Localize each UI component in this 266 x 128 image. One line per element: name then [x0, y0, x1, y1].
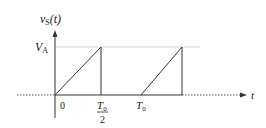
tick-half-period-denominator: 2 — [100, 114, 105, 125]
tick-half-period-numerator: T0 — [97, 99, 107, 113]
x-axis-label: t — [251, 89, 255, 101]
ramp-2 — [141, 47, 182, 95]
y-axis-label: vS(t) — [40, 12, 61, 27]
sawtooth-diagram: vS(t) VA 0 T0 2 T0 t — [0, 0, 266, 128]
level-label: VA — [35, 40, 48, 55]
tick-period: T0 — [136, 99, 146, 113]
t-axis-arrow-icon — [240, 93, 247, 98]
ramp-1 — [55, 47, 101, 95]
y-axis-arrow-icon — [53, 30, 58, 37]
tick-zero: 0 — [60, 100, 65, 111]
